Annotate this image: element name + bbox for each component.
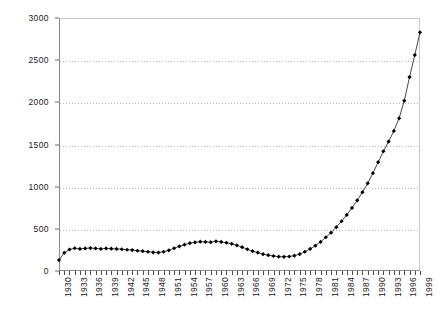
data-point-marker <box>303 250 307 254</box>
y-axis-tick-label: 2500 <box>28 55 49 65</box>
x-axis-tick-label: 1960 <box>220 277 230 297</box>
data-point-marker <box>67 247 71 251</box>
x-axis-tick-label: 1969 <box>267 277 277 297</box>
x-axis-tick-mark <box>336 271 337 275</box>
x-axis-tick-mark <box>352 271 353 275</box>
data-point-marker <box>235 243 239 247</box>
data-point-marker <box>261 252 265 256</box>
data-point-marker <box>360 190 364 194</box>
x-axis-tick-label: 1933 <box>79 277 89 297</box>
x-axis-tick-mark <box>190 271 191 275</box>
data-point-marker <box>78 247 82 251</box>
x-axis-tick-mark <box>237 271 238 275</box>
x-axis-tick-label: 1987 <box>361 277 371 297</box>
x-axis-tick-label: 1972 <box>283 277 293 297</box>
data-point-marker <box>193 240 197 244</box>
data-point-marker <box>177 244 181 248</box>
data-point-marker <box>381 149 385 153</box>
x-axis-tick-label: 1996 <box>408 277 418 297</box>
x-axis-tick-mark <box>289 271 290 275</box>
x-axis-tick-mark <box>300 271 301 275</box>
data-point-marker <box>188 241 192 245</box>
x-axis-tick-mark <box>185 271 186 275</box>
data-point-marker <box>151 250 155 254</box>
x-axis-tick-mark <box>284 271 285 275</box>
x-axis-tick-mark <box>96 271 97 275</box>
series-line <box>59 32 420 260</box>
x-axis-tick-mark <box>362 271 363 275</box>
x-axis-tick-mark <box>274 271 275 275</box>
x-axis-tick-mark <box>117 271 118 275</box>
x-axis-tick-mark <box>420 271 421 275</box>
x-axis-tick-mark <box>321 271 322 275</box>
data-point-marker <box>413 53 417 57</box>
x-axis-tick-mark <box>310 271 311 275</box>
data-point-marker <box>109 247 113 251</box>
data-point-marker <box>167 248 171 252</box>
x-axis-tick-label: 1948 <box>157 277 167 297</box>
x-axis-tick-mark <box>132 271 133 275</box>
x-axis-tick-mark <box>174 271 175 275</box>
x-axis-tick-label: 1954 <box>189 277 199 297</box>
x-axis-tick-mark <box>326 271 327 275</box>
x-axis-tick-mark <box>378 271 379 275</box>
data-series <box>59 18 420 271</box>
data-point-marker <box>230 242 234 246</box>
data-point-marker <box>397 116 401 120</box>
x-axis-tick-mark <box>158 271 159 275</box>
data-point-marker <box>245 247 249 251</box>
x-axis-tick-label: 1930 <box>63 277 73 297</box>
x-axis-tick-label: 1981 <box>330 277 340 297</box>
data-point-marker <box>366 181 370 185</box>
x-axis-tick-label: 1945 <box>141 277 151 297</box>
data-point-marker <box>130 248 134 252</box>
x-axis-tick-mark <box>106 271 107 275</box>
data-point-marker <box>125 248 129 252</box>
x-axis-tick-mark <box>148 271 149 275</box>
x-axis-tick-label: 1939 <box>110 277 120 297</box>
x-axis-tick-mark <box>143 271 144 275</box>
y-axis-tick-label: 3000 <box>28 13 49 23</box>
data-point-marker <box>256 251 260 255</box>
x-axis-tick-mark <box>399 271 400 275</box>
x-axis-tick-mark <box>294 271 295 275</box>
data-point-marker <box>402 99 406 103</box>
x-axis-tick-label: 1951 <box>173 277 183 297</box>
x-axis-tick-label: 1942 <box>126 277 136 297</box>
x-axis-tick-mark <box>410 271 411 275</box>
x-axis-tick-mark <box>242 271 243 275</box>
x-axis-tick-mark <box>127 271 128 275</box>
x-axis-tick-labels: 1930193319361939194219451948195119541957… <box>59 277 420 315</box>
x-axis-tick-mark <box>221 271 222 275</box>
data-point-marker <box>214 239 218 243</box>
x-axis-tick-mark <box>216 271 217 275</box>
data-point-marker <box>135 249 139 253</box>
x-axis-tick-label: 1999 <box>424 277 434 297</box>
data-point-marker <box>182 243 186 247</box>
data-point-marker <box>240 245 244 249</box>
data-point-marker <box>104 246 108 250</box>
data-point-marker <box>114 247 118 251</box>
data-point-marker <box>172 246 176 250</box>
x-axis-tick-mark <box>64 271 65 275</box>
data-point-marker <box>266 253 270 257</box>
data-point-marker <box>271 254 275 258</box>
data-point-marker <box>209 240 213 244</box>
x-axis-tick-mark <box>137 271 138 275</box>
data-point-marker <box>94 246 98 250</box>
x-axis-tick-mark <box>69 271 70 275</box>
data-point-marker <box>141 249 145 253</box>
x-axis-tick-mark <box>279 271 280 275</box>
y-axis-tick-labels: 050010001500200025003000 <box>0 18 56 271</box>
data-point-marker <box>292 254 296 258</box>
data-point-marker <box>73 246 77 250</box>
x-axis-tick-mark <box>268 271 269 275</box>
data-point-marker <box>282 255 286 259</box>
data-point-marker <box>198 240 202 244</box>
x-axis-tick-mark <box>200 271 201 275</box>
x-axis-tick-mark <box>404 271 405 275</box>
x-axis-tick-mark <box>211 271 212 275</box>
x-axis-tick-mark <box>357 271 358 275</box>
data-point-marker <box>224 241 228 245</box>
data-point-marker <box>83 246 87 250</box>
